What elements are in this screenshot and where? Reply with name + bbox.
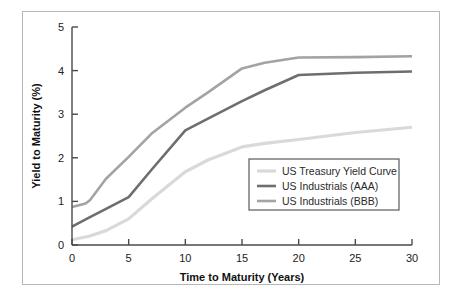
x-tick-label: 30 [406, 252, 418, 264]
y-tick-label: 5 [58, 21, 64, 33]
y-tick-label: 4 [58, 65, 64, 77]
axes-group [72, 27, 412, 245]
y-axis-title: Yield to Maturity (%) [30, 83, 42, 189]
x-tick-label: 0 [69, 252, 75, 264]
legend-label-2[interactable]: US Industrials (BBB) [282, 195, 378, 207]
y-tick-label: 2 [58, 152, 64, 164]
legend-label-0[interactable]: US Treasury Yield Curve [282, 165, 397, 177]
legend-label-1[interactable]: US Industrials (AAA) [282, 180, 378, 192]
x-tick-label: 25 [349, 252, 361, 264]
x-tick-group: 051015202530 [69, 239, 418, 264]
x-tick-label: 15 [236, 252, 248, 264]
chart-legend[interactable]: US Treasury Yield CurveUS Industrials (A… [249, 159, 399, 210]
yield-curve-chart: 012345 051015202530 Time to Maturity (Ye… [0, 0, 468, 297]
y-tick-group: 012345 [58, 21, 78, 251]
x-axis-title: Time to Maturity (Years) [180, 271, 305, 283]
x-tick-label: 10 [179, 252, 191, 264]
y-tick-label: 3 [58, 108, 64, 120]
x-tick-label: 20 [293, 252, 305, 264]
x-tick-label: 5 [126, 252, 132, 264]
series-group [72, 56, 412, 240]
y-tick-label: 0 [58, 239, 64, 251]
y-tick-label: 1 [58, 195, 64, 207]
